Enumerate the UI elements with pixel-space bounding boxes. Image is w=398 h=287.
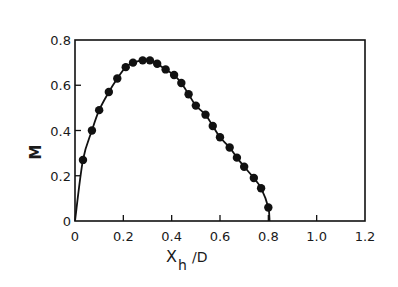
x-axis-ticks [123,215,316,221]
x-axis-label-main: X [166,247,177,266]
data-point-marker [225,143,233,151]
data-point-marker [177,79,185,87]
y-axis-label-text: M [27,145,45,160]
data-point-marker [201,110,209,118]
x-tick-label: 0.4 [161,229,182,244]
x-axis-label: X h /D [166,247,208,273]
x-tick-label: 1.0 [306,229,327,244]
chart: 00.20.40.60.81.01.2 00.20.40.60.8 X h /D… [0,0,398,287]
x-tick-label: 0.2 [113,229,134,244]
x-tick-label: 0.6 [210,229,231,244]
x-tick-label: 1.2 [355,229,376,244]
data-point-marker [192,101,200,109]
data-point-marker [113,74,121,82]
data-point-marker [240,163,248,171]
y-tick-label: 0.8 [50,33,71,48]
x-axis-label-suffix: /D [192,249,208,265]
y-axis-label: M [27,145,45,160]
data-point-marker [95,106,103,114]
data-point-marker [216,133,224,141]
data-point-marker [88,126,96,134]
plot-border [75,40,365,221]
y-tick-label: 0 [63,214,71,229]
series-line [75,60,270,221]
data-point-marker [138,56,146,64]
data-point-marker [209,122,217,130]
data-point-marker [122,63,130,71]
data-series [75,56,273,221]
plot-frame [75,40,365,221]
data-point-marker [170,71,178,79]
x-tick-label: 0 [71,229,79,244]
chart-canvas: 00.20.40.60.81.01.2 00.20.40.60.8 X h /D… [0,0,398,287]
data-point-marker [257,184,265,192]
data-point-marker [146,56,154,64]
y-tick-label: 0.4 [50,124,71,139]
x-axis-tick-labels: 00.20.40.60.81.01.2 [71,229,375,244]
x-axis-label-subscript: h [178,257,187,273]
y-axis-tick-labels: 00.20.40.60.8 [50,33,71,229]
data-point-marker [264,203,272,211]
data-point-marker [153,60,161,68]
data-point-marker [250,174,258,182]
data-point-marker [233,153,241,161]
x-tick-label: 0.8 [258,229,279,244]
data-point-marker [105,88,113,96]
data-point-marker [79,156,87,164]
data-point-marker [129,58,137,66]
data-point-marker [161,65,169,73]
data-point-marker [184,90,192,98]
y-tick-label: 0.6 [50,78,71,93]
y-tick-label: 0.2 [50,169,71,184]
